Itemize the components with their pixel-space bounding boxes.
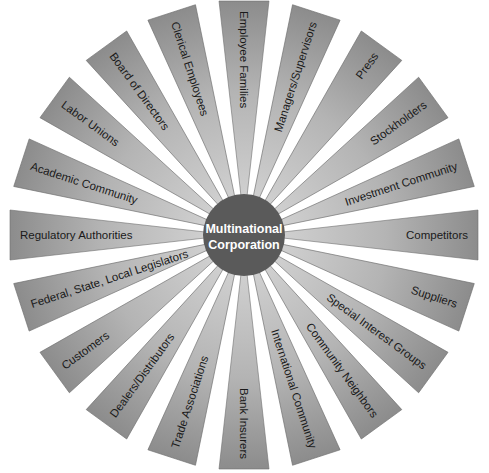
stakeholder-label: Bank Insurers xyxy=(238,388,250,459)
stakeholder-label: Competitors xyxy=(406,229,468,241)
stakeholder-label: Regulatory Authorities xyxy=(20,229,133,241)
stakeholder-label: Employee Families xyxy=(238,11,250,108)
center-hub: Multinational Corporation xyxy=(203,194,285,276)
stakeholder-diagram: Employee FamiliesManagers/SupervisorsPre… xyxy=(0,0,489,473)
center-label-line2: Corporation xyxy=(208,238,280,252)
center-label-line1: Multinational xyxy=(205,222,282,236)
